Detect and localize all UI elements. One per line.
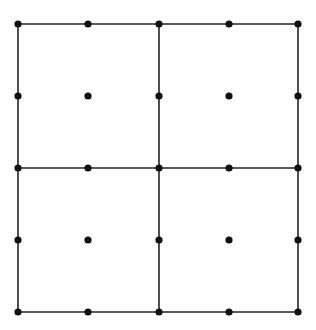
grid-dot-r1-c3 — [225, 92, 232, 99]
grid-dot-r4-c4 — [294, 308, 301, 315]
grid-dot-r3-c2 — [155, 236, 162, 243]
grid-dot-r4-c3 — [225, 308, 232, 315]
grid-dot-r2-c4 — [294, 164, 301, 171]
grid-diagram — [0, 0, 316, 330]
grid-dot-r2-c2 — [155, 164, 162, 171]
grid-dot-r3-c4 — [294, 236, 301, 243]
grid-dot-r1-c4 — [294, 92, 301, 99]
grid-dot-r0-c1 — [84, 20, 91, 27]
grid-dot-r4-c2 — [155, 308, 162, 315]
grid-dot-r4-c0 — [14, 308, 21, 315]
grid-dot-r3-c1 — [84, 236, 91, 243]
grid-dot-r0-c3 — [225, 20, 232, 27]
grid-dot-r2-c0 — [14, 164, 21, 171]
grid-dot-r4-c1 — [84, 308, 91, 315]
grid-dot-r2-c1 — [84, 164, 91, 171]
grid-dot-r3-c3 — [225, 236, 232, 243]
grid-dot-r1-c0 — [14, 92, 21, 99]
grid-dot-r0-c0 — [14, 20, 21, 27]
grid-dot-r1-c1 — [84, 92, 91, 99]
grid-dot-r2-c3 — [225, 164, 232, 171]
grid-dot-r0-c4 — [294, 20, 301, 27]
grid-dot-r0-c2 — [155, 20, 162, 27]
grid-dot-r1-c2 — [155, 92, 162, 99]
grid-dot-r3-c0 — [14, 236, 21, 243]
